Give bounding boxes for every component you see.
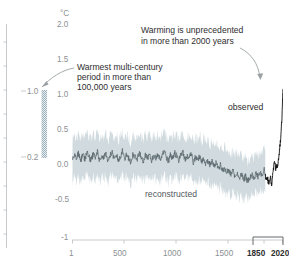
x-ticklabel-2020: 2020 (271, 249, 289, 258)
observed-period-bracket (253, 237, 283, 245)
side-range-bar (42, 90, 48, 158)
x-ticklabel-1: 1 (69, 249, 74, 258)
reconstructed-label: reconstructed (145, 189, 197, 199)
annotation-right-line-2: in more than 2000 years (141, 36, 234, 46)
climate-temperature-figure: 1.0 0.2 °C 2.0 1.5 1.0 0.5 0.0 -0.5 -1 (0, 0, 289, 269)
annotation-left-line-3: 100,000 years (77, 82, 131, 92)
y-ticklabel--1: -1 (61, 233, 69, 242)
y-ticklabel--0.5: -0.5 (55, 195, 70, 204)
side-axis-label-1: 1.0 (27, 87, 39, 96)
y-ticklabel-1.5: 1.5 (57, 55, 69, 64)
x-ticklabel-1000: 1000 (163, 249, 182, 258)
y-ticklabel-2.0: 2.0 (57, 20, 69, 29)
y-axis-unit-label: °C (60, 9, 69, 18)
annotation-left-arrowhead (42, 81, 49, 87)
annotation-warmest-period: Warmest multi-century period in more tha… (42, 62, 163, 92)
y-ticklabel-1.0: 1.0 (57, 90, 69, 99)
side-axis-labels: 1.0 0.2 (21, 87, 39, 162)
x-ticklabel-1500: 1500 (215, 249, 234, 258)
annotation-right-arrow (240, 48, 260, 77)
observed-label: observed (228, 102, 264, 112)
x-axis: 1 500 1000 1500 1850 2020 (69, 237, 289, 258)
observed-line (265, 89, 283, 186)
x-ticklabel-1850: 1850 (247, 249, 266, 258)
figure-svg: 1.0 0.2 °C 2.0 1.5 1.0 0.5 0.0 -0.5 -1 (0, 0, 289, 269)
annotation-left-line-2: period in more than (77, 72, 151, 82)
y-axis: °C 2.0 1.5 1.0 0.5 0.0 -0.5 -1 (55, 9, 70, 242)
side-axis-label-2: 0.2 (27, 153, 39, 162)
y-ticklabel-0.5: 0.5 (57, 125, 69, 134)
annotation-left-line-1: Warmest multi-century (77, 62, 163, 72)
annotation-right-line-1: Warming is unprecedented (141, 25, 244, 35)
y-ticklabel-0.0: 0.0 (57, 160, 69, 169)
annotation-right-arrowhead (257, 73, 263, 80)
side-axis (4, 24, 7, 248)
x-ticklabel-500: 500 (113, 249, 127, 258)
